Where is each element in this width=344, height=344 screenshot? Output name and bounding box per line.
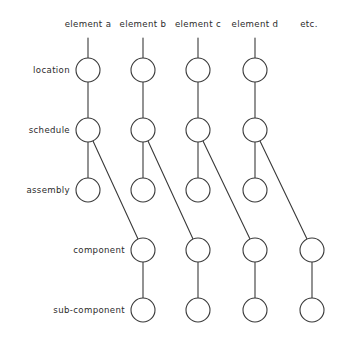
row-label-row-component: component	[73, 245, 125, 255]
row-label-row-schedule: schedule	[29, 125, 70, 135]
node-n-c-sub-component[interactable]	[186, 298, 210, 322]
row-label-row-sub-component: sub-component	[53, 305, 125, 315]
node-n-c-location[interactable]	[186, 58, 210, 82]
node-n-a-location[interactable]	[76, 58, 100, 82]
node-n-b-component[interactable]	[131, 238, 155, 262]
column-header-col-etc: etc.	[300, 19, 318, 29]
node-n-c-assembly[interactable]	[186, 178, 210, 202]
node-n-c-schedule[interactable]	[186, 118, 210, 142]
column-header-col-c: element c	[175, 19, 221, 29]
node-n-d-sub-component[interactable]	[243, 298, 267, 322]
node-n-a-assembly[interactable]	[76, 178, 100, 202]
row-label-row-assembly: assembly	[26, 185, 70, 195]
node-n-d-schedule[interactable]	[243, 118, 267, 142]
hierarchy-diagram: element aelement belement celement detc.…	[0, 0, 344, 344]
node-n-b-assembly[interactable]	[131, 178, 155, 202]
column-header-col-a: element a	[65, 19, 112, 29]
node-n-etc-sub-component[interactable]	[300, 298, 324, 322]
node-n-b-sub-component[interactable]	[131, 298, 155, 322]
diagram-canvas: element aelement belement celement detc.…	[0, 0, 344, 344]
column-headers-layer: element aelement belement celement detc.	[65, 19, 318, 29]
node-n-d-location[interactable]	[243, 58, 267, 82]
node-n-c-component[interactable]	[186, 238, 210, 262]
column-header-col-b: element b	[120, 19, 167, 29]
node-n-d-component[interactable]	[243, 238, 267, 262]
node-n-etc-component[interactable]	[300, 238, 324, 262]
nodes-layer	[76, 58, 324, 322]
node-n-b-schedule[interactable]	[131, 118, 155, 142]
node-n-b-location[interactable]	[131, 58, 155, 82]
node-n-a-schedule[interactable]	[76, 118, 100, 142]
row-label-row-location: location	[33, 65, 70, 75]
column-header-col-d: element d	[232, 19, 279, 29]
node-n-d-assembly[interactable]	[243, 178, 267, 202]
